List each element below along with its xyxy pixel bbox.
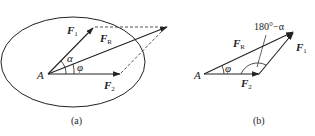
point-a-label-b: A: [193, 69, 201, 81]
figure-b: A φ 180°−α FR F1 F2 (b): [193, 21, 307, 127]
vector-f1-b: [259, 33, 293, 74]
force-diagram: A α φ F1 FR F2 (a) A φ 180°−α FR F1 F2 (…: [0, 0, 315, 136]
f1-label-b: F1: [295, 41, 307, 55]
f2-label-b: F2: [240, 77, 252, 91]
dashed-line-right: [121, 27, 166, 73]
vector-fr-b: [204, 32, 293, 74]
vector-fr: [48, 27, 167, 74]
f2-label: F2: [103, 79, 115, 93]
angle-arc-supplement: [241, 63, 266, 74]
caption-b: (b): [253, 115, 265, 127]
supplement-leader-line: [257, 35, 266, 67]
angle-arc-phi-b: [222, 66, 224, 74]
fr-label: FR: [99, 32, 112, 46]
fr-label-b: FR: [232, 37, 245, 51]
f1-label: F1: [66, 24, 78, 38]
point-a-label: A: [36, 69, 44, 81]
angle-supplement-label: 180°−α: [254, 21, 285, 32]
angle-alpha-label: α: [67, 52, 73, 64]
figure-a: A α φ F1 FR F2 (a): [1, 17, 167, 127]
angle-phi-label: φ: [77, 61, 83, 73]
angle-arc-phi: [73, 64, 74, 74]
caption-a: (a): [71, 115, 82, 127]
angle-phi-label-b: φ: [225, 62, 231, 74]
